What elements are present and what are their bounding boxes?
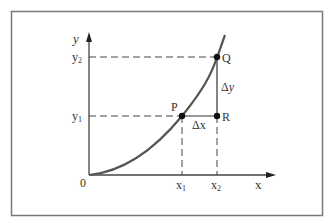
point-p-label: P xyxy=(171,100,178,114)
point-r-label: R xyxy=(222,110,230,124)
delta-y-label: Δy xyxy=(221,80,235,94)
point-q-marker xyxy=(214,54,220,60)
y-axis-label: y xyxy=(71,31,79,46)
y2-label: y2 xyxy=(72,50,82,65)
increment-diagram: y x 0 y2 y1 x1 x2 P Q R Δx Δy xyxy=(0,0,328,221)
diagram-frame xyxy=(12,12,323,216)
point-p-marker xyxy=(179,113,185,119)
point-r-marker xyxy=(214,113,220,119)
x2-label: x2 xyxy=(211,178,221,193)
function-curve xyxy=(89,35,225,175)
point-q-label: Q xyxy=(222,51,231,65)
y1-label: y1 xyxy=(72,109,82,124)
delta-x-label: Δx xyxy=(192,118,206,132)
x1-label: x1 xyxy=(176,178,186,193)
origin-label: 0 xyxy=(80,176,86,190)
x-axis-label: x xyxy=(255,177,262,192)
y-axis-arrow-icon xyxy=(86,32,92,42)
x-axis-arrow-icon xyxy=(266,172,276,178)
